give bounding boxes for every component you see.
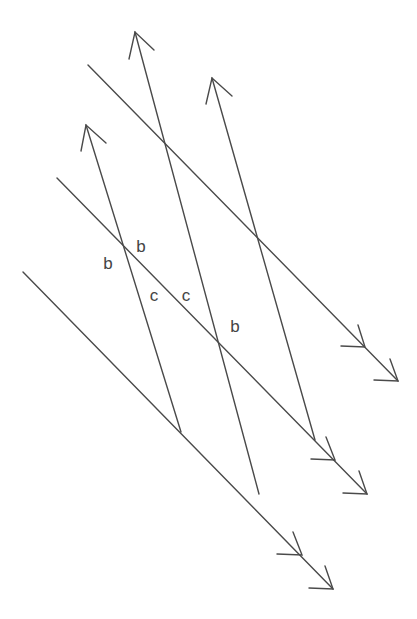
- parallel-lines-diagram: [0, 0, 417, 619]
- transversal-d2: [57, 178, 367, 494]
- angle-label-b: b: [103, 255, 112, 272]
- angle-label-c: c: [182, 287, 191, 304]
- angle-label-b: b: [136, 238, 145, 255]
- angle-label-b: b: [230, 318, 239, 335]
- parallel-line-s2: [129, 32, 259, 494]
- transversal-d3: [23, 272, 333, 589]
- angle-label-c: c: [150, 287, 159, 304]
- parallel-line-s1: [81, 125, 181, 432]
- transversal-d1: [88, 65, 398, 381]
